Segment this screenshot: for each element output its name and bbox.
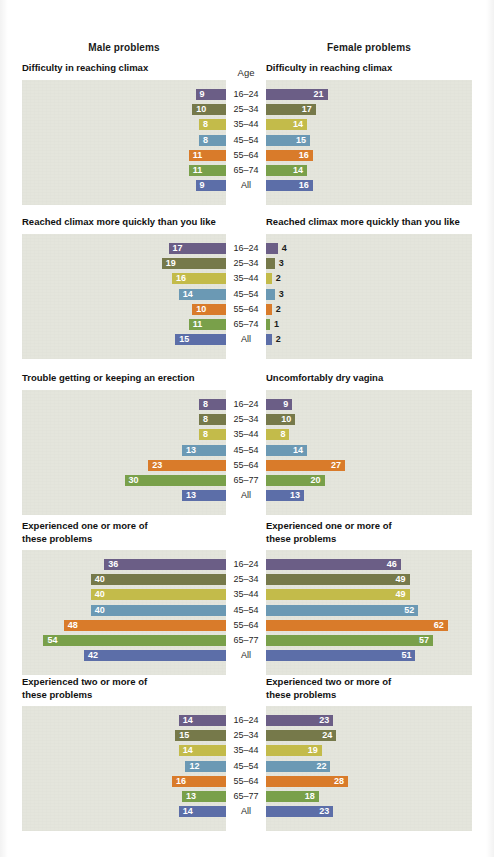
bar-value-male: 13 xyxy=(186,791,196,802)
bar-female: 27 xyxy=(266,460,345,471)
bar-value-female: 10 xyxy=(281,414,291,425)
bar-value-female: 3 xyxy=(279,289,284,300)
bar-female: 14 xyxy=(266,445,307,456)
age-column-header: Age xyxy=(226,67,266,78)
bar-value-male: 11 xyxy=(193,150,203,161)
bar-value-female: 16 xyxy=(299,150,309,161)
bar-female: 22 xyxy=(266,761,330,772)
bar-row: 2355–6427 xyxy=(0,460,494,475)
bar-female: 13 xyxy=(266,490,304,501)
bar-row: 1716–244 xyxy=(0,243,494,258)
bar-female: 15 xyxy=(266,135,310,146)
bar-value-female: 9 xyxy=(283,399,288,410)
bar-female: 20 xyxy=(266,475,325,486)
bar-value-female: 22 xyxy=(316,761,326,772)
bar-value-male: 17 xyxy=(173,243,183,254)
bar-value-male: 23 xyxy=(152,460,162,471)
bar-value-female: 4 xyxy=(282,243,287,254)
bar-row: 845–5415 xyxy=(0,135,494,150)
bar-value-female: 46 xyxy=(387,559,397,570)
bar-value-female: 51 xyxy=(401,650,411,661)
age-label: 45–54 xyxy=(226,761,266,772)
bar-value-female: 23 xyxy=(319,806,329,817)
bar-male: 8 xyxy=(199,429,226,440)
bar-row: 1445–543 xyxy=(0,289,494,304)
age-label: 45–54 xyxy=(226,445,266,456)
bar-row: 1165–741 xyxy=(0,319,494,334)
bar-male: 9 xyxy=(196,89,226,100)
bar-value-male: 14 xyxy=(183,715,193,726)
bar-female: 57 xyxy=(266,635,433,646)
bar-value-male: 14 xyxy=(183,289,193,300)
bar-value-male: 8 xyxy=(203,119,208,130)
bar-female: 18 xyxy=(266,791,319,802)
bar-female: 24 xyxy=(266,730,336,741)
bar-value-male: 30 xyxy=(129,475,139,486)
age-label: 45–54 xyxy=(226,289,266,300)
plot-area: 916–24211025–3417835–4414845–54151155–64… xyxy=(0,80,494,205)
bar-row: 916–2421 xyxy=(0,89,494,104)
bar-value-female: 20 xyxy=(311,475,321,486)
bar-female: 17 xyxy=(266,104,316,115)
bar-value-female: 27 xyxy=(331,460,341,471)
bar-value-female: 14 xyxy=(293,165,303,176)
bar-row: 1245–5422 xyxy=(0,761,494,776)
bar-female: 14 xyxy=(266,119,307,130)
bar-row: 825–3410 xyxy=(0,414,494,429)
bar-value-female: 13 xyxy=(290,490,300,501)
column-header-female: Female problems xyxy=(266,42,472,53)
age-label: 55–64 xyxy=(226,460,266,471)
bar-value-female: 52 xyxy=(404,605,414,616)
bar-male: 8 xyxy=(199,399,226,410)
bar-male: 54 xyxy=(43,635,226,646)
bar-value-male: 10 xyxy=(196,304,206,315)
bar-male: 14 xyxy=(179,806,226,817)
bar-value-male: 13 xyxy=(186,490,196,501)
age-label: 55–64 xyxy=(226,150,266,161)
bar-female: 46 xyxy=(266,559,401,570)
bar-male: 16 xyxy=(172,776,226,787)
bar-value-male: 11 xyxy=(193,319,203,330)
bar-row: 13All13 xyxy=(0,490,494,505)
bar-male: 8 xyxy=(199,119,226,130)
bar-female: 49 xyxy=(266,574,410,585)
bar-value-female: 28 xyxy=(334,776,344,787)
age-label: 16–24 xyxy=(226,243,266,254)
bar-value-male: 13 xyxy=(186,445,196,456)
bar-value-male: 40 xyxy=(95,605,105,616)
age-label: All xyxy=(226,180,266,191)
bar-value-female: 62 xyxy=(434,620,444,631)
age-label: 35–44 xyxy=(226,589,266,600)
section-titles: Difficulty in reaching climaxAgeDifficul… xyxy=(0,62,494,80)
bar-rows: 816–249825–3410835–4481345–54142355–6427… xyxy=(0,399,494,505)
section-title-left: Difficulty in reaching climax xyxy=(22,62,237,75)
age-label: 16–24 xyxy=(226,89,266,100)
bar-value-male: 16 xyxy=(176,776,186,787)
bar-row: 4855–6462 xyxy=(0,620,494,635)
plot-area: 816–249825–3410835–4481345–54142355–6427… xyxy=(0,390,494,515)
bar-female: 1 xyxy=(266,319,270,330)
bar-row: 4035–4449 xyxy=(0,589,494,604)
age-label: All xyxy=(226,650,266,661)
bar-value-female: 17 xyxy=(302,104,312,115)
bar-value-male: 8 xyxy=(203,414,208,425)
bar-row: 5465–7757 xyxy=(0,635,494,650)
section-title-right: Uncomfortably dry vagina xyxy=(266,372,481,385)
age-label: 35–44 xyxy=(226,745,266,756)
section-title-right: Experienced one or more of these problem… xyxy=(266,520,481,545)
bar-female: 52 xyxy=(266,605,418,616)
bar-value-female: 14 xyxy=(293,445,303,456)
bar-row: 9All16 xyxy=(0,180,494,195)
bar-row: 1165–7414 xyxy=(0,165,494,180)
bar-female: 49 xyxy=(266,589,410,600)
bar-value-female: 49 xyxy=(396,589,406,600)
bar-row: 1365–7718 xyxy=(0,791,494,806)
chart-root: Male problems Female problems Difficulty… xyxy=(0,0,494,857)
bar-value-male: 12 xyxy=(189,761,199,772)
chart-section-difficulty-reaching-climax: Difficulty in reaching climaxAgeDifficul… xyxy=(0,62,494,205)
age-label: All xyxy=(226,490,266,501)
age-label: 25–34 xyxy=(226,104,266,115)
bar-row: 1345–5414 xyxy=(0,445,494,460)
bar-value-male: 48 xyxy=(68,620,78,631)
bar-value-female: 2 xyxy=(276,304,281,315)
